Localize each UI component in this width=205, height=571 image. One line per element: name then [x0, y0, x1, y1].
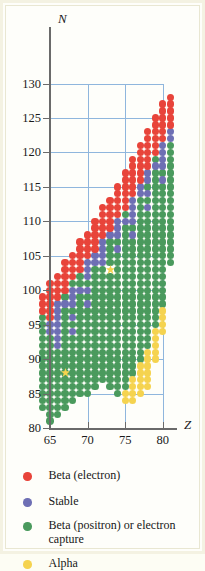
nuclide-dot-beta-electron	[99, 204, 106, 211]
nuclide-dot-beta-electron	[159, 107, 166, 114]
nuclide-dot-beta-electron	[129, 190, 136, 197]
nuclide-dot-beta-positron	[84, 355, 91, 362]
nuclide-dot-beta-positron	[61, 342, 68, 349]
nuclide-dot-beta-positron	[167, 245, 174, 252]
nuclide-dot-beta-positron	[122, 307, 129, 314]
nuclide-dot-beta-positron	[137, 224, 144, 231]
nuclide-dot-beta-electron	[84, 245, 91, 252]
nuclide-dot-beta-electron	[167, 94, 174, 101]
nuclide-dot-beta-positron	[144, 211, 151, 218]
nuclide-dot-beta-electron	[106, 224, 113, 231]
nuclide-dot-stable	[167, 135, 174, 142]
nuclide-dot-beta-positron	[69, 280, 76, 287]
nuclide-dot-beta-positron	[167, 176, 174, 183]
nuclide-dot-stable	[159, 149, 166, 156]
nuclide-dot-beta-electron	[129, 176, 136, 183]
nuclide-dot-beta-positron	[114, 369, 121, 376]
nuclide-dot-beta-electron	[152, 135, 159, 142]
nuclide-dot-beta-positron	[144, 218, 151, 225]
nuclide-dot-beta-positron	[106, 280, 113, 287]
nuclide-dot-beta-electron	[122, 169, 129, 176]
nuclide-dot-beta-electron	[91, 231, 98, 238]
nuclide-dot-beta-positron	[114, 280, 121, 287]
nuclide-dot-beta-positron	[144, 307, 151, 314]
nuclide-dot-beta-electron	[137, 149, 144, 156]
nuclide-dot-beta-positron	[114, 355, 121, 362]
nuclide-dot-beta-positron	[76, 335, 83, 342]
nuclide-dot-beta-positron	[159, 280, 166, 287]
nuclide-dot-stable	[54, 342, 61, 349]
nuclide-dot-beta-positron	[122, 362, 129, 369]
nuclide-dot-beta-positron	[106, 314, 113, 321]
nuclide-dot-alpha	[137, 376, 144, 383]
legend-swatch-beta-electron	[23, 472, 32, 481]
nuclide-dot-stable	[144, 169, 151, 176]
nuclide-dot-beta-positron	[137, 211, 144, 218]
nuclide-dot-beta-positron	[61, 390, 68, 397]
nuclide-dot-alpha	[144, 362, 151, 369]
nuclide-dot-beta-positron	[137, 342, 144, 349]
nuclide-dot-beta-positron	[122, 355, 129, 362]
nuclide-dot-beta-positron	[106, 376, 113, 383]
nuclide-dot-beta-positron	[76, 293, 83, 300]
nuclide-dot-beta-positron	[129, 355, 136, 362]
nuclide-dot-beta-positron	[122, 335, 129, 342]
nuclide-dot-beta-positron	[106, 328, 113, 335]
nuclide-dot-beta-positron	[129, 245, 136, 252]
nuclide-dot-beta-positron	[167, 183, 174, 190]
nuclide-dot-beta-positron	[54, 355, 61, 362]
nuclide-dot-alpha	[137, 369, 144, 376]
nuclide-dot-beta-electron	[69, 252, 76, 259]
nuclide-dot-beta-electron	[152, 128, 159, 135]
nuclide-dot-alpha	[152, 328, 159, 335]
nuclide-dot-beta-positron	[144, 224, 151, 231]
nuclide-dot-beta-positron	[84, 328, 91, 335]
nuclide-dot-beta-positron	[76, 376, 83, 383]
nuclide-dot-beta-electron	[106, 211, 113, 218]
nuclide-dot-beta-positron	[129, 307, 136, 314]
nuclide-dot-beta-positron	[122, 293, 129, 300]
nuclide-dot-beta-electron	[122, 183, 129, 190]
nuclide-dot-beta-positron	[76, 342, 83, 349]
legend-item: Beta (electron)	[23, 469, 203, 483]
nuclide-dot-beta-positron	[152, 218, 159, 225]
nuclide-dot-beta-positron	[122, 259, 129, 266]
nuclide-dot-beta-positron	[76, 280, 83, 287]
y-tick	[43, 118, 50, 119]
nuclide-dot-beta-positron	[91, 300, 98, 307]
nuclide-dot-beta-electron	[114, 197, 121, 204]
nuclide-dot-stable	[144, 190, 151, 197]
nuclide-dot-beta-electron	[61, 280, 68, 287]
nuclide-dot-beta-electron	[54, 287, 61, 294]
nuclide-dot-beta-positron	[129, 266, 136, 273]
nuclide-dot-beta-electron	[114, 183, 121, 190]
nuclide-dot-beta-positron	[122, 266, 129, 273]
x-tick	[88, 422, 89, 429]
nuclide-dot-beta-positron	[76, 300, 83, 307]
nuclide-dot-beta-positron	[159, 266, 166, 273]
nuclide-dot-beta-positron	[137, 252, 144, 259]
nuclide-dot-beta-electron	[144, 156, 151, 163]
nuclide-dot-beta-positron	[99, 369, 106, 376]
nuclide-dot-beta-positron	[91, 349, 98, 356]
nuclide-dot-beta-positron	[144, 321, 151, 328]
nuclide-dot-beta-electron	[106, 218, 113, 225]
nuclide-dot-beta-electron	[129, 156, 136, 163]
nuclide-dot-beta-positron	[152, 238, 159, 245]
nuclide-dot-beta-positron	[122, 211, 129, 218]
nuclide-dot-beta-electron	[152, 121, 159, 128]
nuclide-dot-alpha	[122, 390, 129, 397]
y-tick-label: 120	[5, 146, 41, 159]
nuclide-dot-beta-positron	[122, 349, 129, 356]
nuclide-dot-beta-electron	[99, 218, 106, 225]
nuclide-dot-beta-positron	[144, 252, 151, 259]
nuclide-dot-stable	[54, 321, 61, 328]
y-tick	[43, 84, 50, 85]
nuclide-dot-beta-electron	[144, 162, 151, 169]
nuclide-dot-beta-positron	[106, 287, 113, 294]
nuclide-dot-stable	[114, 218, 121, 225]
nuclide-dot-beta-positron	[122, 287, 129, 294]
nuclide-dot-alpha	[152, 335, 159, 342]
nuclide-dot-beta-positron	[114, 335, 121, 342]
